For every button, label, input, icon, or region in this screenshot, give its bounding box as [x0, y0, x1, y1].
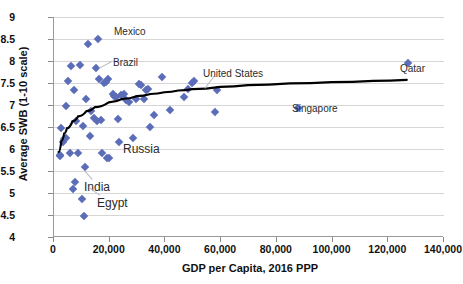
- data-point: [150, 111, 158, 119]
- data-point: [213, 85, 221, 93]
- x-tick-label: 40,000: [148, 243, 180, 255]
- y-tick-label: 4.5: [0, 209, 15, 221]
- y-tick-label: 7: [0, 99, 15, 111]
- gridline: [54, 215, 444, 216]
- x-tick-mark: [276, 237, 277, 242]
- x-tick-mark: [53, 237, 54, 242]
- data-point: [94, 35, 102, 43]
- annotation-label-singapore: Singapore: [292, 103, 338, 114]
- x-tick-label: 140,000: [424, 243, 462, 255]
- annotation-label-brazil: Brazil: [113, 57, 138, 68]
- data-point: [211, 108, 219, 116]
- data-point: [146, 123, 154, 131]
- y-tick-label: 8.5: [0, 33, 15, 45]
- x-tick-label: 100,000: [313, 243, 351, 255]
- x-tick-mark: [387, 237, 388, 242]
- x-tick-label: 0: [50, 243, 56, 255]
- x-tick-label: 60,000: [204, 243, 236, 255]
- data-point: [79, 122, 87, 130]
- y-tick-label: 4: [0, 231, 15, 243]
- annotation-label-mexico: Mexico: [114, 26, 146, 37]
- y-tick-label: 7.5: [0, 77, 15, 89]
- gridline: [54, 105, 444, 106]
- x-tick-mark: [443, 237, 444, 242]
- data-point: [180, 92, 188, 100]
- data-point: [77, 195, 85, 203]
- data-point: [57, 124, 65, 132]
- y-tick-label: 6: [0, 143, 15, 155]
- annotation-label-egypt: Egypt: [97, 196, 128, 210]
- data-point: [69, 86, 77, 94]
- gridline: [54, 17, 444, 18]
- x-axis-title: GDP per Capita, 2016 PPP: [40, 262, 460, 274]
- annotation-label-qatar: Qatar: [400, 63, 425, 74]
- y-tick-label: 5.5: [0, 165, 15, 177]
- gridline: [54, 39, 444, 40]
- x-tick-mark: [164, 237, 165, 242]
- x-tick-label: 120,000: [368, 243, 406, 255]
- data-point: [85, 132, 93, 140]
- data-point: [113, 115, 121, 123]
- gridline: [54, 193, 444, 194]
- y-tick-label: 5: [0, 187, 15, 199]
- y-tick-label: 9: [0, 11, 15, 23]
- x-tick-mark: [332, 237, 333, 242]
- x-tick-mark: [109, 237, 110, 242]
- data-point: [82, 95, 90, 103]
- gridline: [54, 127, 444, 128]
- data-point: [84, 40, 92, 48]
- gridline: [54, 83, 444, 84]
- data-point: [80, 212, 88, 220]
- y-tick-label: 8: [0, 55, 15, 67]
- data-point: [139, 95, 147, 103]
- gridline: [54, 171, 444, 172]
- y-axis-title: Average SWB (1-10 scale): [17, 29, 29, 199]
- x-tick-mark: [220, 237, 221, 242]
- data-point: [165, 106, 173, 114]
- y-tick-label: 6.5: [0, 121, 15, 133]
- annotation-label-united-states: United States: [203, 68, 263, 79]
- data-point: [62, 102, 70, 110]
- data-point: [67, 62, 75, 70]
- x-tick-label: 80,000: [260, 243, 292, 255]
- annotation-label-russia: Russia: [123, 142, 160, 156]
- chart-container: Average SWB (1-10 scale) GDP per Capita,…: [0, 0, 463, 284]
- gridline: [54, 149, 444, 150]
- x-tick-label: 20,000: [93, 243, 125, 255]
- data-point: [158, 73, 166, 81]
